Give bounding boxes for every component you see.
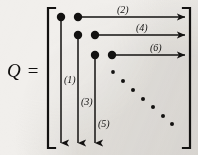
step-label-vertical-3: (5) <box>98 119 109 129</box>
pivot-dot-d34 <box>108 51 116 59</box>
ellipsis-dot-3 <box>131 88 135 92</box>
ellipsis-dot-4 <box>141 97 145 101</box>
ellipsis-dot-2 <box>121 79 125 83</box>
ellipsis-dot-5 <box>151 105 155 109</box>
ellipsis-dot-6 <box>161 114 165 118</box>
left-bracket <box>48 8 55 148</box>
right-bracket <box>183 8 190 148</box>
step-label-horizontal-2: (4) <box>136 23 147 33</box>
pivot-dot-d33 <box>91 51 99 59</box>
step-label-horizontal-3: (6) <box>150 43 161 53</box>
matrix-pivot-dots <box>57 13 116 59</box>
matrix-diagram-canvas <box>0 0 198 155</box>
pivot-dot-d12 <box>74 13 82 21</box>
ellipsis-dot-1 <box>111 70 115 74</box>
pivot-dot-d22 <box>74 31 82 39</box>
step-label-horizontal-1: (2) <box>117 5 128 15</box>
matrix-diagram-figure: Q = (2)(4)(6)(1)(3)(5) <box>0 0 198 155</box>
step-label-vertical-2: (3) <box>81 97 92 107</box>
diagonal-ellipsis-dots <box>111 70 174 126</box>
pivot-dot-d23 <box>91 31 99 39</box>
ellipsis-dot-7 <box>170 122 174 126</box>
pivot-dot-d11 <box>57 13 65 21</box>
step-label-vertical-1: (1) <box>64 75 75 85</box>
